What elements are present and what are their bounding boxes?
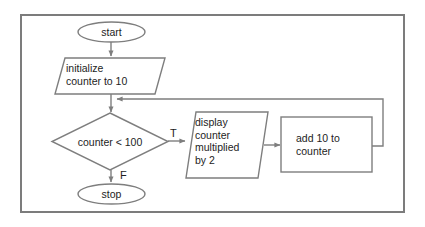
edge-label-false: F [120,170,127,181]
node-start [78,22,145,42]
flowchart-graphics [0,0,425,227]
node-display [186,112,268,178]
node-initialize [55,58,165,94]
edge-label-true: T [170,128,177,139]
node-decision [52,113,168,170]
node-increment [281,117,372,172]
node-stop [78,184,145,204]
flowchart-canvas: start initialize counter to 10 counter <… [0,0,425,227]
